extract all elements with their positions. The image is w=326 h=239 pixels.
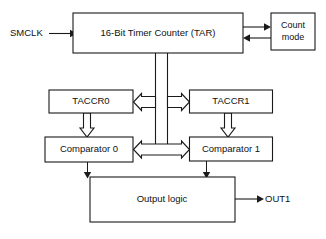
block-label-comparator0: Comparator 0 [60,143,118,154]
block-label-count-mode-line1: Count [281,20,306,30]
connector-bus-to-comparators [134,141,190,158]
connector-taccr0-to-comparator0 [80,113,94,137]
block-label-taccr1: TACCR1 [212,95,249,106]
connector-countmode-to-tar [243,34,271,41]
connector-taccr1-to-comparator1 [221,113,235,137]
connector-comparator0-to-outputlogic [84,162,91,179]
connector-bus-to-taccr1 [168,94,190,111]
signal-label-out1: OUT1 [265,193,290,204]
timer-block-diagram: 16-Bit Timer Counter (TAR) Count mode TA… [0,0,326,239]
block-label-comparator1: Comparator 1 [202,143,260,154]
signal-label-smclk: SMCLK [10,27,43,38]
block-label-timer-counter: 16-Bit Timer Counter (TAR) [101,27,216,38]
connector-outputlogic-to-out1 [235,195,264,202]
block-label-taccr0: TACCR0 [72,95,109,106]
connector-tar-to-countmode [243,23,271,30]
block-label-count-mode-line2: mode [282,32,305,42]
connector-bus-to-taccr0 [134,94,156,111]
block-label-output-logic: Output logic [137,193,188,204]
connector-comparator1-to-outputlogic [203,161,210,179]
diagram-canvas: 16-Bit Timer Counter (TAR) Count mode TA… [0,0,326,239]
